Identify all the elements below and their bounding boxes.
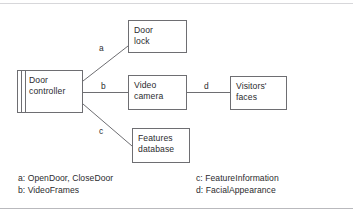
node-door-lock[interactable]: Door lock <box>128 20 187 53</box>
node-door-lock-line2: lock <box>134 36 186 47</box>
node-door-controller-line2: controller <box>29 86 65 96</box>
node-features-database-line2: database <box>138 144 189 155</box>
node-video-camera[interactable]: Video camera <box>128 75 187 110</box>
node-visitors-faces-line2: faces <box>236 92 286 103</box>
legend-left-column: a: OpenDoor, CloseDoor b: VideoFrames <box>18 172 113 197</box>
legend-item-d: d: FacialAppearance <box>196 184 279 196</box>
edge-label-b: b <box>101 82 106 91</box>
node-door-lock-line1: Door <box>134 25 153 35</box>
edge-label-d: d <box>204 82 209 91</box>
node-video-camera-line2: camera <box>134 91 186 102</box>
edge-c-line <box>83 104 132 146</box>
node-door-controller[interactable]: Door controller <box>17 70 83 113</box>
component-band-2 <box>25 70 26 113</box>
component-band-1 <box>21 70 22 113</box>
node-features-database-line1: Features <box>138 133 173 143</box>
node-door-controller-label: Door controller <box>29 75 80 97</box>
node-visitors-faces-line1: Visitors' <box>236 81 267 91</box>
legend-item-a: a: OpenDoor, CloseDoor <box>18 172 113 184</box>
legend-item-b: b: VideoFrames <box>18 184 113 196</box>
node-door-controller-line1: Door <box>29 75 48 85</box>
legend-item-c: c: FeatureInformation <box>196 172 279 184</box>
node-visitors-faces[interactable]: Visitors' faces <box>230 76 287 110</box>
node-features-database[interactable]: Features database <box>132 128 190 163</box>
edge-a-line <box>83 46 128 81</box>
node-video-camera-line1: Video <box>134 80 156 90</box>
legend-right-column: c: FeatureInformation d: FacialAppearanc… <box>196 172 279 197</box>
diagram-figure: Door controller Door lock Video camera F… <box>0 0 353 221</box>
edge-label-a: a <box>99 44 104 53</box>
edge-label-c: c <box>99 127 103 136</box>
